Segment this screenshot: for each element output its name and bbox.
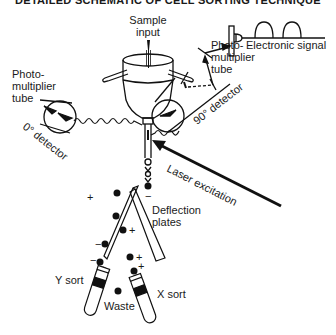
electronic-signal-label: Electronic signal: [246, 39, 326, 51]
x-sort-tube: [129, 273, 157, 324]
sample-input-label-line2: input: [136, 26, 160, 38]
detector-0-label: 0° detector: [21, 120, 71, 162]
right-plate-charge: −: [145, 190, 151, 202]
droplet: [114, 190, 121, 197]
droplet-charged-positive: [120, 227, 127, 234]
droplet-charge: +: [138, 260, 144, 272]
droplet-waste: [115, 288, 122, 295]
diagram-title: DETAILED SCHEMATIC OF CELL SORTING TECHN…: [15, 0, 321, 6]
deflection-label-line2: plates: [152, 216, 182, 228]
y-sort-label: Y sort: [55, 274, 84, 286]
pmt-left-label-line1: Photo-: [12, 68, 45, 80]
deflection-label-line1: Deflection: [152, 204, 201, 216]
waste-label: Waste: [104, 300, 135, 312]
pmt-left-label-line2: multiplier: [12, 80, 56, 92]
cell-sorting-diagram: DETAILED SCHEMATIC OF CELL SORTING TECHN…: [0, 0, 336, 335]
droplet: [113, 213, 120, 220]
droplet-charged-positive: [131, 268, 138, 275]
detector-0-degree: [40, 100, 76, 133]
left-signal-wire: [74, 119, 142, 126]
laser-label: Laser excitation: [165, 162, 239, 208]
droplet-charged-positive: [127, 254, 134, 261]
pmt-right-label-line3: tube: [211, 63, 232, 75]
pmt-left-label-line3: tube: [12, 92, 33, 104]
left-plate-charge: +: [87, 191, 93, 203]
droplet-charge: −: [95, 238, 101, 250]
detector-90-label: 90° detector: [191, 80, 245, 126]
sample-input-label-line1: Sample: [129, 14, 166, 26]
deflection-plate-left: [104, 186, 138, 259]
x-sort-label: X sort: [157, 288, 186, 300]
pmt-right-label-line2: multiplier: [211, 51, 255, 63]
droplet-charge: −: [90, 254, 96, 266]
droplet-charged-negative: [102, 241, 109, 248]
droplet-charged-negative: [97, 259, 104, 266]
flow-chamber: [103, 54, 194, 182]
forming-droplet: [145, 183, 152, 190]
droplet-charge: +: [129, 224, 135, 236]
